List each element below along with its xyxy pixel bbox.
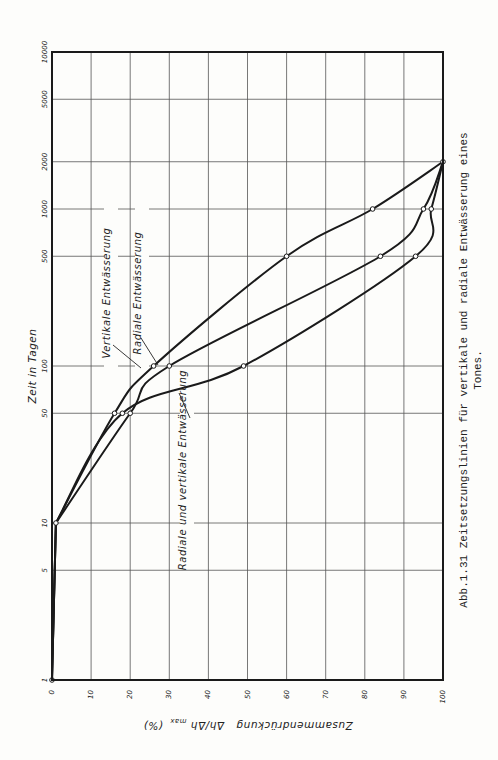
data-point-marker	[54, 521, 59, 526]
data-point-marker	[112, 411, 117, 416]
x-tick-label: 60	[283, 689, 291, 698]
y-tick-label: 100	[41, 359, 49, 373]
x-tick-label: 90	[400, 689, 408, 698]
y-tick-labels: 15105010050010002000500010000	[41, 40, 49, 682]
data-point-marker	[241, 364, 246, 369]
x-axis-title: Zusammendrückung Δh/Δh max (%)	[143, 717, 353, 732]
svg-text:Zusammendrückung Δh/Δh: Zusammendrückung Δh/Δh max (%)	[143, 717, 353, 732]
x-tick-label: 50	[244, 689, 252, 698]
y-tick-label: 10000	[41, 40, 49, 63]
figure-caption: Abb.1.31 Zeitsetzungslinien für vertikal…	[458, 132, 484, 607]
curve-label-vertikale: Vertikale Entwässerung	[101, 227, 112, 358]
curve-label-radiale-vertikale: Radiale und vertikale Entwässerung	[177, 370, 188, 571]
x-axis-title-unit: (%)	[143, 720, 163, 732]
x-tick-label: 80	[361, 689, 369, 698]
x-tick-label: 100	[439, 689, 447, 703]
x-tick-label: 40	[204, 689, 212, 698]
x-tick-label: 30	[165, 689, 173, 698]
data-point-marker	[151, 364, 156, 369]
data-point-marker	[378, 254, 383, 259]
x-axis-title-main: Zusammendrückung	[236, 720, 354, 732]
x-axis-title-sub: max	[169, 717, 186, 725]
y-tick-label: 1	[41, 678, 49, 682]
caption-line-1: Abb.1.31 Zeitsetzungslinien für vertikal…	[458, 132, 470, 607]
y-tick-label: 10	[41, 518, 49, 527]
caption-line-2: Tones.	[472, 350, 484, 390]
y-tick-label: 50	[41, 408, 49, 417]
data-point-marker	[429, 207, 434, 212]
grid-lines	[52, 52, 443, 680]
y-tick-label: 1000	[41, 200, 49, 218]
data-point-marker	[120, 411, 125, 416]
data-point-marker	[284, 254, 289, 259]
data-point-marker	[167, 364, 172, 369]
y-tick-label: 2000	[41, 152, 49, 170]
y-axis-title: Zeit in Tagen	[26, 329, 38, 405]
data-point-marker	[421, 207, 426, 212]
curve-label-radiale: Radiale Entwässerung	[132, 231, 143, 354]
y-tick-label: 5	[41, 567, 49, 572]
x-tick-label: 20	[126, 689, 134, 698]
y-tick-label: 5000	[41, 90, 49, 108]
x-tick-labels: 0102030405060708090100	[48, 689, 447, 703]
x-tick-label: 10	[87, 689, 95, 698]
x-axis-title-formula: Δh/Δh	[190, 720, 225, 732]
data-point-marker	[128, 411, 133, 416]
y-tick-label: 500	[41, 249, 49, 263]
x-tick-label: 70	[322, 689, 330, 698]
data-point-marker	[413, 254, 418, 259]
settlement-time-chart: 0102030405060708090100 15105010050010002…	[0, 0, 498, 760]
data-point-marker	[370, 207, 375, 212]
x-tick-label: 0	[48, 689, 56, 694]
